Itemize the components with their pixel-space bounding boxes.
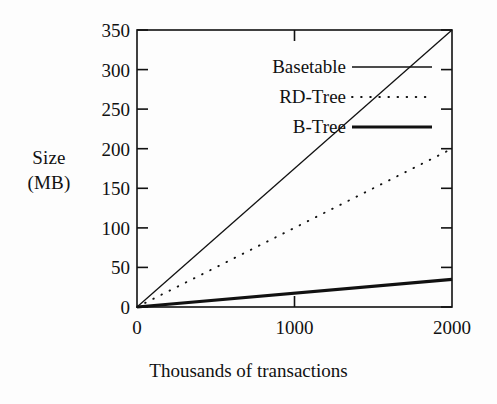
chart-figure: Basetable RD-Tree B-Tree 350 300 250 200… xyxy=(0,0,497,404)
x-axis-tick-labels: 0 1000 2000 xyxy=(0,0,497,404)
x-axis-title: Thousands of transactions xyxy=(0,360,497,381)
x-tick-label-1000: 1000 xyxy=(250,318,340,337)
x-tick-label-0: 0 xyxy=(92,318,182,337)
x-tick-label-2000: 2000 xyxy=(407,318,497,337)
